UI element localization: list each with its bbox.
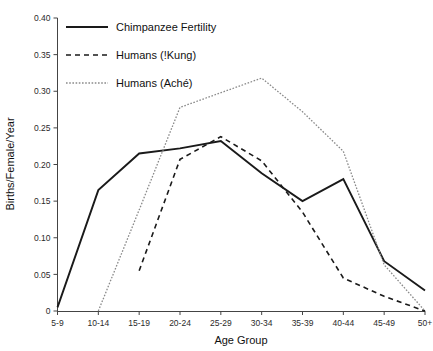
series-line-humans-kung: [139, 137, 425, 311]
legend-label-kung: Humans (!Kung): [116, 49, 196, 61]
x-axis-title: Age Group: [214, 334, 267, 346]
x-tick-label: 10-14: [87, 318, 109, 328]
y-tick-label: 0.30: [34, 86, 51, 96]
x-tick-label: 50+: [418, 318, 432, 328]
y-tick-group: 00.050.100.150.200.250.300.350.40: [34, 13, 58, 316]
legend-label-chimpanzee: Chimpanzee Fertility: [116, 21, 217, 33]
x-tick-label: 5-9: [51, 318, 64, 328]
fertility-line-chart: 00.050.100.150.200.250.300.350.40 5-910-…: [0, 0, 433, 351]
y-tick-label: 0.35: [34, 50, 51, 60]
x-tick-label: 20-24: [169, 318, 191, 328]
x-tick-group: 5-910-1415-1920-2425-2930-3435-3940-4445…: [51, 311, 432, 328]
series-group: [58, 78, 426, 311]
y-tick-label: 0.15: [34, 196, 51, 206]
x-tick-label: 30-34: [251, 318, 273, 328]
y-tick-label: 0.20: [34, 160, 51, 170]
x-tick-label: 45-49: [373, 318, 395, 328]
y-tick-label: 0.05: [34, 270, 51, 280]
x-tick-label: 25-29: [210, 318, 232, 328]
y-tick-label: 0: [46, 306, 51, 316]
x-tick-label: 40-44: [332, 318, 354, 328]
x-tick-label: 15-19: [128, 318, 150, 328]
y-tick-label: 0.40: [34, 13, 51, 23]
y-tick-label: 0.10: [34, 233, 51, 243]
chart-legend: Chimpanzee Fertility Humans (!Kung) Huma…: [66, 21, 217, 89]
axis-group: [58, 18, 426, 312]
y-axis-title: Births/Female/Year: [4, 117, 16, 210]
series-line-humans-ach: [98, 78, 425, 311]
x-tick-label: 35-39: [292, 318, 314, 328]
legend-label-ache: Humans (Aché): [116, 77, 192, 89]
chart-canvas: 00.050.100.150.200.250.300.350.40 5-910-…: [0, 0, 433, 351]
y-tick-label: 0.25: [34, 123, 51, 133]
